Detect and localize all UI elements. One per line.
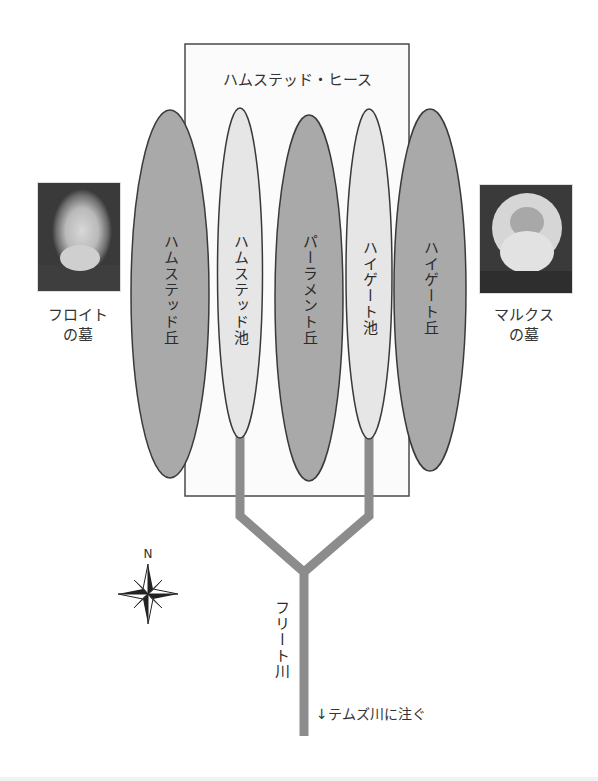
label-highgate-pond: ハイゲート池 [361, 240, 376, 336]
compass-rose-icon [118, 564, 178, 624]
freud-grave-label: フロイト の墓 [30, 305, 126, 346]
bottom-edge [0, 777, 598, 781]
portrait-marx [479, 184, 573, 294]
map-canvas [0, 0, 598, 781]
label-hampstead-pond: ハムステッド池 [232, 234, 247, 346]
portrait-freud [37, 182, 121, 292]
marx-label-line2: の墓 [474, 325, 574, 345]
freud-label-line1: フロイト [30, 305, 126, 325]
hampstead-heath-map: ハムステッド・ヒース ハムステッド丘 ハムステッド池 パーラメント丘 ハイゲート… [0, 0, 598, 781]
river-name-label: フリート川 [273, 600, 288, 680]
label-highgate-hill: ハイゲート丘 [422, 240, 437, 336]
river-outflow-note: ↓テムズ川に注ぐ [316, 705, 426, 724]
marx-coat [480, 271, 572, 293]
marx-beard [500, 231, 554, 273]
freud-beard [60, 245, 100, 271]
marx-label-line1: マルクス [474, 305, 574, 325]
label-hampstead-hill: ハムステッド丘 [162, 234, 177, 346]
label-parliament-hill: パーラメント丘 [301, 234, 316, 346]
heath-title: ハムステッド・ヒース [185, 70, 409, 90]
freud-label-line2: の墓 [30, 325, 126, 345]
compass-north-label: N [140, 546, 156, 562]
marx-grave-label: マルクス の墓 [474, 305, 574, 346]
